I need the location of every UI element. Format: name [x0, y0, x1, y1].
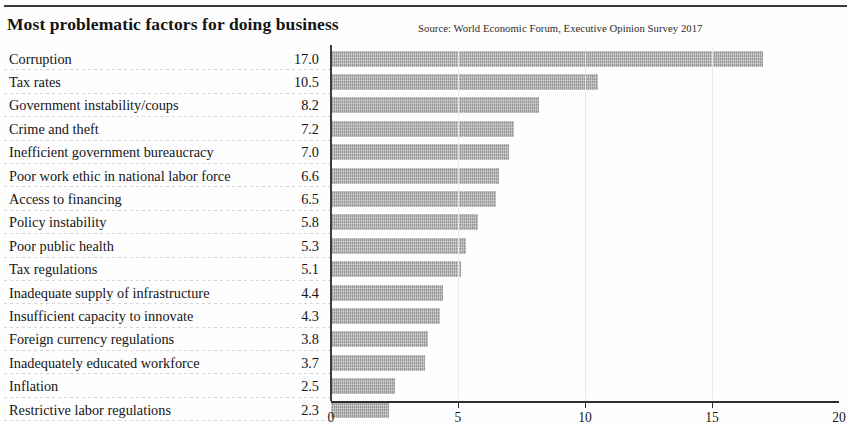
axis-tick [458, 401, 459, 408]
axis-tick [712, 401, 713, 408]
bar [331, 378, 395, 394]
value-label: 2.5 [301, 379, 319, 393]
bar-track [331, 94, 846, 117]
bar [331, 168, 499, 184]
bar [331, 285, 443, 301]
category-axis-line [330, 45, 332, 401]
bar-track [331, 328, 846, 351]
bar [331, 121, 514, 137]
category-label: Policy instability [9, 215, 106, 229]
category-label: Poor work ethic in national labor force [9, 168, 231, 182]
table-row: Policy instability5.8 [0, 211, 851, 234]
bar-track [331, 374, 846, 397]
bar-track [331, 258, 846, 281]
table-row: Access to financing6.5 [0, 187, 851, 210]
axis-tick-label: 5 [455, 410, 462, 426]
axis-tick-label: 20 [832, 410, 846, 426]
category-label: Inadequate supply of infrastructure [9, 285, 209, 299]
source-note: Source: World Economic Forum, Executive … [418, 22, 702, 34]
table-row: Inadequately educated workforce3.7 [0, 351, 851, 374]
bar-track [331, 234, 846, 257]
bar [331, 331, 428, 347]
chart-page: Most problematic factors for doing busin… [0, 0, 851, 430]
gridline [712, 47, 713, 399]
bar [331, 214, 478, 230]
category-label: Crime and theft [9, 122, 99, 136]
table-row: Inefficient government bureaucracy7.0 [0, 141, 851, 164]
bar-track [331, 164, 846, 187]
bar [331, 97, 539, 113]
bar-track [331, 141, 846, 164]
value-label: 3.7 [301, 356, 319, 370]
value-label: 6.5 [301, 192, 319, 206]
bar-track [331, 70, 846, 93]
category-label: Government instability/coups [9, 98, 179, 112]
bar [331, 144, 509, 160]
value-label: 4.4 [301, 285, 319, 299]
table-row: Tax rates10.5 [0, 70, 851, 93]
category-label: Insufficient capacity to innovate [9, 309, 193, 323]
value-label: 5.8 [301, 215, 319, 229]
category-label: Inflation [9, 379, 58, 393]
bar [331, 261, 461, 277]
bar-track [331, 47, 846, 70]
bar-track [331, 117, 846, 140]
table-row: Inflation2.5 [0, 374, 851, 397]
bar-track [331, 351, 846, 374]
table-row: Poor public health5.3 [0, 234, 851, 257]
value-label: 5.3 [301, 239, 319, 253]
bar [331, 74, 598, 90]
bar [331, 355, 425, 371]
axis-tick-label: 15 [705, 410, 719, 426]
value-label: 6.6 [301, 168, 319, 182]
axis-tick-label: 0 [328, 410, 335, 426]
value-label: 17.0 [294, 52, 319, 66]
table-row: Corruption17.0 [0, 47, 851, 70]
value-label: 10.5 [294, 75, 319, 89]
bar-track [331, 281, 846, 304]
category-label: Foreign currency regulations [9, 332, 174, 346]
category-label: Poor public health [9, 239, 114, 253]
table-row: Inadequate supply of infrastructure4.4 [0, 281, 851, 304]
chart-plot-area: Corruption17.0Tax rates10.5Government in… [0, 47, 851, 430]
value-label: 5.1 [301, 262, 319, 276]
bar-track [331, 187, 846, 210]
category-label: Restrictive labor regulations [9, 402, 171, 416]
value-label: 7.2 [301, 122, 319, 136]
table-row: Tax regulations5.1 [0, 258, 851, 281]
bar-rows: Corruption17.0Tax rates10.5Government in… [0, 47, 851, 399]
bar [331, 308, 440, 324]
top-divider-rule [4, 5, 847, 7]
bar-track [331, 304, 846, 327]
category-label: Inefficient government bureaucracy [9, 145, 214, 159]
category-label: Tax regulations [9, 262, 97, 276]
chart-header: Most problematic factors for doing busin… [0, 14, 851, 46]
value-label: 4.3 [301, 309, 319, 323]
bar [331, 238, 466, 254]
category-label: Access to financing [9, 192, 122, 206]
row-separator [4, 420, 331, 421]
category-label: Tax rates [9, 75, 61, 89]
value-label: 8.2 [301, 98, 319, 112]
table-row: Insufficient capacity to innovate4.3 [0, 304, 851, 327]
gridline [585, 47, 586, 399]
value-label: 7.0 [301, 145, 319, 159]
bar [331, 191, 496, 207]
page-title: Most problematic factors for doing busin… [7, 14, 339, 35]
value-label: 3.8 [301, 332, 319, 346]
table-row: Government instability/coups8.2 [0, 94, 851, 117]
category-label: Corruption [9, 52, 72, 66]
bar [331, 402, 389, 418]
value-label: 2.3 [301, 402, 319, 416]
gridline [458, 47, 459, 399]
axis-tick-label: 10 [578, 410, 592, 426]
table-row: Crime and theft7.2 [0, 117, 851, 140]
category-label: Inadequately educated workforce [9, 356, 200, 370]
table-row: Foreign currency regulations3.8 [0, 328, 851, 351]
bar-track [331, 211, 846, 234]
bar [331, 51, 763, 67]
table-row: Poor work ethic in national labor force6… [0, 164, 851, 187]
axis-tick [585, 401, 586, 408]
